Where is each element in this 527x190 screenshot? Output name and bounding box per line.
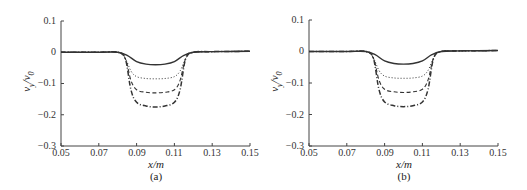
y-axis-title-sep: /v (20, 75, 32, 83)
panel-caption: (b) (389, 170, 419, 182)
series-solid (61, 51, 250, 64)
plot-area-b (248, 0, 511, 190)
series-dashed (61, 51, 250, 93)
y-tick-label: 0.1 (26, 16, 56, 26)
x-tick-label: 0.15 (483, 148, 513, 158)
x-tick-label: 0.07 (84, 148, 114, 158)
x-tick-label: 0.11 (407, 148, 437, 158)
y-axis-title-sub: 0 (275, 71, 284, 75)
x-tick-label: 0.13 (197, 148, 227, 158)
x-tick-label: 0.05 (46, 148, 76, 158)
x-tick-label: 0.07 (332, 148, 362, 158)
y-axis-title: vy/v0 (268, 62, 283, 102)
x-tick-label: 0.13 (445, 148, 475, 158)
y-tick-label: −0.2 (274, 110, 304, 120)
series-dash-dot (61, 51, 250, 107)
y-axis-title-main: v (20, 87, 32, 92)
series-solid (309, 51, 498, 65)
x-axis-title: x/m (384, 158, 424, 170)
y-axis-title: vy/v0 (20, 62, 35, 102)
chart-panel-b: 0.1 0 −0.1 −0.2 −0.3 0.05 0.07 0.09 0.11… (248, 0, 511, 190)
y-axis-title-main: v (268, 87, 280, 92)
x-tick-label: 0.05 (294, 148, 324, 158)
series-dash-dot (309, 51, 498, 107)
y-tick-label: 0.1 (274, 15, 304, 25)
y-axis-title-sub: y (27, 83, 36, 87)
x-tick-label: 0.09 (122, 148, 152, 158)
y-axis-title-sep: /v (268, 75, 280, 83)
y-tick-label: 0 (26, 47, 56, 57)
y-tick-label: −0.2 (26, 110, 56, 120)
y-axis-title-sub: 0 (27, 71, 36, 75)
plot-area-a (0, 0, 263, 190)
y-axis-title-sub: y (275, 83, 284, 87)
series-dashed (309, 51, 498, 93)
chart-panel-a: 0.1 0 −0.1 −0.2 −0.3 0.05 0.07 0.09 0.11… (0, 0, 263, 190)
x-tick-label: 0.11 (159, 148, 189, 158)
x-axis-title: x/m (136, 158, 176, 170)
panel-caption: (a) (141, 170, 171, 182)
x-tick-label: 0.09 (370, 148, 400, 158)
y-tick-label: 0 (274, 46, 304, 56)
